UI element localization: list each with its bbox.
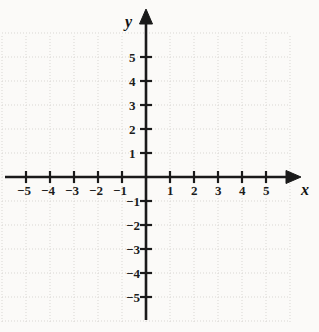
- x-axis-label: x: [301, 182, 309, 198]
- x-tick-label-1: 1: [167, 184, 174, 197]
- y-tick-label--3: −3: [126, 243, 140, 256]
- y-tick-label--4: −4: [126, 267, 140, 280]
- y-tick-label-2: 2: [129, 123, 136, 136]
- y-tick-label-5: 5: [129, 51, 136, 64]
- x-tick-label-4: 4: [239, 184, 246, 197]
- y-tick-label-3: 3: [129, 99, 136, 112]
- y-tick-label--2: −2: [126, 219, 140, 232]
- x-tick-label-5: 5: [263, 184, 270, 197]
- x-tick-label--1: −1: [113, 184, 127, 197]
- x-tick-label-2: 2: [191, 184, 198, 197]
- y-tick-label--5: −5: [126, 291, 140, 304]
- y-tick-label--1: −1: [126, 195, 140, 208]
- y-axis-label: y: [125, 14, 132, 30]
- x-tick-label--4: −4: [41, 184, 55, 197]
- x-tick-label--3: −3: [65, 184, 79, 197]
- x-axis-arrowhead: [286, 171, 301, 184]
- axes: [0, 0, 319, 332]
- x-tick-label--2: −2: [89, 184, 103, 197]
- y-tick-label-1: 1: [129, 147, 136, 160]
- x-tick-label--5: −5: [17, 184, 31, 197]
- y-axis-arrowhead: [140, 9, 153, 24]
- y-tick-label-4: 4: [129, 75, 136, 88]
- coordinate-plane: −5 −4 −3 −2 −1 1 2 3 4 5 5 4 3 2 1 −1 −2…: [0, 0, 319, 332]
- x-tick-label-3: 3: [215, 184, 222, 197]
